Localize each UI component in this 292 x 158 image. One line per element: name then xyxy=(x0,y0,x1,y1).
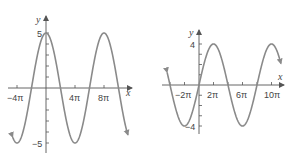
right-y-min-label: −4 xyxy=(185,122,195,132)
left-plot: y x 5 −5 −4π 4π 8π xyxy=(7,14,132,153)
right-x-tick-label-neg2pi: −2π xyxy=(175,90,191,100)
right-x-tick-label-2pi: 2π xyxy=(207,90,218,100)
left-y-max-label: 5 xyxy=(37,29,42,39)
left-x-tick-label-neg4pi: −4π xyxy=(7,93,23,103)
left-x-label: x xyxy=(125,87,131,98)
right-plot: y x 4 −4 −2π 2π 6π 10π xyxy=(162,27,284,134)
left-x-tick-label-8pi: 8π xyxy=(98,93,109,103)
right-x-tick-label-10pi: 10π xyxy=(264,90,280,100)
right-x-label: x xyxy=(277,71,283,82)
left-y-min-label: −5 xyxy=(32,139,42,149)
right-x-tick-label-6pi: 6π xyxy=(236,90,247,100)
left-y-label: y xyxy=(35,14,41,25)
figure: y x 5 −5 −4π 4π 8π y x 4 −4 −2π 2π 6π 10… xyxy=(0,0,292,158)
right-y-max-label: 4 xyxy=(190,40,195,50)
right-y-label: y xyxy=(188,27,194,38)
left-x-tick-label-4pi: 4π xyxy=(69,93,80,103)
